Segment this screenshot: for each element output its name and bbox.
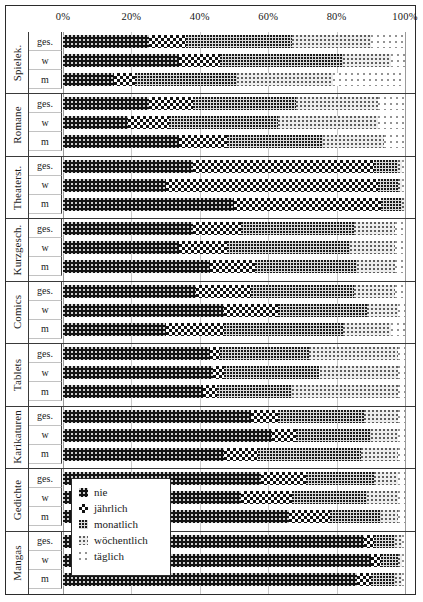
bar-segment-jaehrlich: [261, 472, 305, 485]
bar-segment-monatlich: [330, 510, 381, 523]
bar-segment-woechentlich: [354, 222, 395, 235]
bar-segment-taeglich: [402, 535, 405, 548]
bar-segment-jaehrlich: [210, 347, 220, 360]
bar-segment-woechentlich: [323, 135, 385, 148]
bar-segment-monatlich: [135, 73, 238, 86]
bar-row-label: w: [29, 51, 62, 70]
category-label-text: Gedichte: [11, 480, 23, 521]
bar-segment-monatlich: [186, 35, 292, 48]
category-label: Spielek.: [6, 32, 29, 93]
stacked-bar: [63, 347, 415, 360]
bar-row: w: [29, 426, 415, 445]
bar-segment-woechentlich: [367, 491, 398, 504]
bar-segment-monatlich: [217, 385, 292, 398]
bar-row: m: [29, 132, 415, 151]
axis-tick-40pct: 40%: [190, 11, 210, 22]
bar-segment-taeglich: [391, 323, 405, 336]
legend-label: wöchentlich: [94, 534, 148, 546]
bar-segment-monatlich: [374, 535, 395, 548]
bar-segment-taeglich: [398, 510, 405, 523]
bar-segment-jaehrlich: [234, 198, 381, 211]
category-label: Tablets: [6, 344, 29, 405]
legend-item-monatlich: monatlich: [79, 516, 162, 532]
category-label-text: Karikaturen: [11, 411, 23, 465]
bar-rows: ges.wm: [29, 32, 415, 93]
stacked-bar: [63, 323, 415, 336]
bar-segment-nie: [63, 160, 193, 173]
category-group-karikaturen: Karikaturenges.wm: [6, 407, 415, 469]
bar-segment-nie: [63, 54, 179, 67]
bar-row-label: ges.: [29, 407, 62, 426]
bar-segment-nie: [63, 385, 203, 398]
bar-segment-jaehrlich: [289, 510, 330, 523]
plot-area: Spielek.ges.wmRomaneges.wmTheaterst.ges.…: [6, 32, 415, 594]
category-label-text: Tablets: [11, 359, 23, 391]
bar-row-label: m: [29, 132, 62, 151]
bar-segment-monatlich: [258, 448, 361, 461]
bar-segment-taeglich: [398, 304, 405, 317]
bar-row-label: ges.: [29, 94, 62, 113]
bar-row: m: [29, 195, 415, 214]
bar-segment-jaehrlich: [357, 573, 371, 586]
bar-segment-woechentlich: [381, 510, 398, 523]
bar-row: m: [29, 445, 415, 464]
bar-segment-woechentlich: [357, 260, 395, 273]
bar-segment-taeglich: [398, 429, 405, 442]
bar-segment-jaehrlich: [179, 241, 227, 254]
category-group-spielek: Spielek.ges.wm: [6, 32, 415, 94]
bar-segment-woechentlich: [374, 472, 398, 485]
bar-row: w: [29, 51, 415, 70]
bar-row: ges.: [29, 344, 415, 363]
bar-segment-woechentlich: [361, 448, 399, 461]
category-label-text: Comics: [11, 295, 23, 329]
bar-row: ges.: [29, 407, 415, 426]
bar-segment-nie: [63, 347, 210, 360]
bar-rows: ges.wm: [29, 157, 415, 218]
stacked-bar: [63, 410, 415, 423]
bar-row: w: [29, 176, 415, 195]
stacked-bar: [63, 116, 415, 129]
bar-segment-jaehrlich: [128, 116, 169, 129]
bar-segment-taeglich: [398, 448, 405, 461]
stacked-bar: [63, 304, 415, 317]
bar-segment-taeglich: [378, 116, 405, 129]
bar-row-label: w: [29, 551, 62, 570]
x-axis: 0%20%40%60%80%100%: [6, 6, 415, 32]
bar-segment-woechentlich: [350, 241, 394, 254]
bar-segment-nie: [63, 73, 114, 86]
bar-row: m: [29, 382, 415, 401]
bar-segment-monatlich: [292, 491, 367, 504]
bar-segment-jaehrlich: [251, 410, 278, 423]
bar-segment-jaehrlich: [210, 260, 254, 273]
legend-item-jaehrlich: jährlich: [79, 500, 162, 516]
category-group-comics: Comicsges.wm: [6, 282, 415, 344]
bar-segment-jaehrlich: [272, 429, 296, 442]
bar-segment-jaehrlich: [196, 285, 251, 298]
bar-segment-jaehrlich: [149, 35, 187, 48]
bar-segment-jaehrlich: [213, 366, 223, 379]
legend-swatch-jaehrlich-icon: [79, 504, 88, 513]
bar-segment-monatlich: [278, 304, 367, 317]
bar-row-label: w: [29, 238, 62, 257]
bar-segment-monatlich: [227, 241, 350, 254]
bar-row-label: m: [29, 445, 62, 464]
legend-swatch-woechentlich-icon: [79, 536, 88, 545]
stacked-bar: [63, 35, 415, 48]
legend-swatch-monatlich-icon: [79, 520, 88, 529]
bar-segment-nie: [63, 323, 166, 336]
bar-segment-taeglich: [398, 472, 405, 485]
stacked-bar: [63, 448, 415, 461]
bar-segment-taeglich: [378, 97, 405, 110]
category-label-text: Spielek.: [11, 44, 23, 81]
bar-segment-jaehrlich: [193, 222, 241, 235]
stacked-bar: [63, 160, 415, 173]
category-label: Kurzgesch.: [6, 219, 29, 280]
category-group-romane: Romaneges.wm: [6, 94, 415, 156]
bar-segment-nie: [63, 179, 166, 192]
category-label: Mangas: [6, 532, 29, 594]
bar-segment-jaehrlich: [166, 323, 224, 336]
stacked-bar: [63, 179, 415, 192]
bar-segment-nie: [63, 35, 149, 48]
bar-row-label: ges.: [29, 282, 62, 301]
bar-segment-monatlich: [255, 260, 358, 273]
